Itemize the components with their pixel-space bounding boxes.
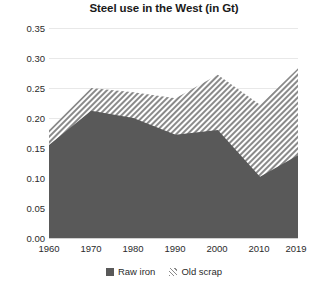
x-axis-line [49,238,298,239]
x-axis-tick: 2010 [248,243,269,254]
legend-label: Raw iron [118,266,156,277]
legend-swatch-icon [169,268,177,276]
y-axis-tick: 0.35 [1,23,45,34]
legend-item-old-scrap: Old scrap [169,266,222,277]
chart-title: Steel use in the West (in Gt) [0,2,328,14]
legend-item-raw-iron: Raw iron [106,266,156,277]
x-axis-tick: 1960 [38,243,59,254]
legend-label: Old scrap [181,266,222,277]
y-axis-tick: 0.00 [1,233,45,244]
y-axis-tick: 0.30 [1,53,45,64]
y-axis-tick: 0.15 [1,143,45,154]
y-axis-tick: 0.25 [1,83,45,94]
chart-legend: Raw iron Old scrap [0,266,328,277]
legend-swatch-icon [106,268,114,276]
y-axis-tick: 0.10 [1,173,45,184]
chart-container: Steel use in the West (in Gt) 0.35 0.30 … [0,0,328,290]
x-axis-tick: 1980 [122,243,143,254]
x-axis-tick: 2000 [206,243,227,254]
stacked-area-series [49,28,298,238]
x-axis: 1960 1970 1980 1990 2000 2010 2019 [0,243,328,259]
x-axis-tick: 1970 [80,243,101,254]
y-axis-tick: 0.20 [1,113,45,124]
y-axis-tick: 0.05 [1,203,45,214]
plot-area [49,28,298,238]
x-axis-tick: 1990 [164,243,185,254]
x-axis-tick: 2019 [285,243,306,254]
